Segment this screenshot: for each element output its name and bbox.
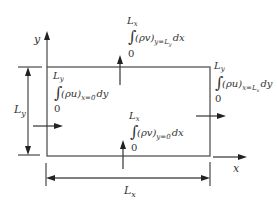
left-flux-arrowhead xyxy=(54,123,63,129)
left-flux-upper-limit: Ly xyxy=(52,70,65,83)
right-flux-upper-limit: Ly xyxy=(213,60,226,73)
x-axis: x xyxy=(213,154,247,175)
x-axis-label: x xyxy=(233,162,240,175)
top-flux: Lx ∫ (ρv)y=Lydx 0 xyxy=(117,15,185,85)
top-flux-lower-limit: 0 xyxy=(128,48,134,59)
width-dimension-label: Lx xyxy=(123,184,136,199)
bottom-flux-lower-limit: 0 xyxy=(131,142,137,153)
right-flux-arrowhead xyxy=(217,113,226,119)
control-volume-diagram: y x Ly Lx Lx ∫ (ρv)y=Lydx 0 Lx ∫ xyxy=(0,0,277,203)
height-dimension-arrowhead-bottom xyxy=(25,146,31,155)
bottom-flux-arrowhead xyxy=(120,140,126,149)
height-dimension-label: Ly xyxy=(13,103,26,118)
right-flux-integrand: (ρu)x=Lxdy xyxy=(222,78,273,93)
right-flux-lower-limit: 0 xyxy=(215,93,221,104)
y-axis-arrowhead xyxy=(44,31,50,40)
y-axis: y xyxy=(33,31,50,67)
height-dimension-arrowhead-top xyxy=(25,67,31,76)
height-dimension: Ly xyxy=(13,67,42,155)
width-dimension-arrowhead-right xyxy=(201,175,210,181)
left-flux: Ly ∫ (ρu)x=0dy 0 xyxy=(33,70,109,129)
bottom-flux: Lx ∫ (ρv)y=0dx 0 xyxy=(120,110,184,169)
x-axis-arrowhead xyxy=(238,154,247,160)
left-flux-integrand: (ρu)x=0dy xyxy=(61,88,109,102)
top-flux-arrowhead xyxy=(117,55,123,64)
top-flux-integrand: (ρv)y=Lydx xyxy=(135,32,185,48)
y-axis-label: y xyxy=(33,33,41,46)
width-dimension-arrowhead-left xyxy=(46,175,55,181)
right-flux: Ly ∫ (ρu)x=Lxdy 0 xyxy=(196,60,273,119)
bottom-flux-integrand: (ρv)y=0dx xyxy=(137,127,184,141)
left-flux-lower-limit: 0 xyxy=(54,103,60,114)
width-dimension: Lx xyxy=(46,162,210,199)
